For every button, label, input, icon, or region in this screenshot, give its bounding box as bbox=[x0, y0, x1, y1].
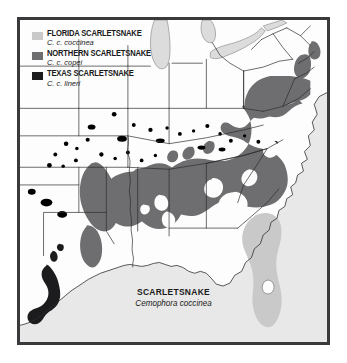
legend-label-texas-scientific: C. c. lineri bbox=[47, 80, 134, 88]
legend-label-northern-common: NORTHERN SCARLETSNAKE bbox=[47, 50, 151, 58]
legend-item-texas-scarletsnake[interactable]: TEXAS SCARLETSNAKE C. c. lineri bbox=[32, 70, 159, 87]
legend-label-florida-common: FLORIDA SCARLETSNAKE bbox=[47, 30, 142, 38]
legend-swatch-texas-icon bbox=[32, 72, 43, 80]
caption-scientific-name: Cemophora coccinea bbox=[29, 298, 318, 308]
map-frame: FLORIDA SCARLETSNAKE C. c. coccinea NORT… bbox=[17, 17, 330, 345]
legend-item-florida-scarletsnake[interactable]: FLORIDA SCARLETSNAKE C. c. coccinea bbox=[32, 30, 159, 47]
map-legend: FLORIDA SCARLETSNAKE C. c. coccinea NORT… bbox=[32, 30, 159, 91]
legend-label-texas-common: TEXAS SCARLETSNAKE bbox=[47, 70, 134, 78]
map-caption: SCARLETSNAKE Cemophora coccinea bbox=[20, 287, 327, 308]
legend-label-florida-scientific: C. c. coccinea bbox=[47, 39, 142, 47]
caption-common-name: SCARLETSNAKE bbox=[29, 287, 318, 297]
legend-swatch-northern-icon bbox=[32, 52, 43, 60]
scarletsnake-range-figure: FLORIDA SCARLETSNAKE C. c. coccinea NORT… bbox=[0, 0, 347, 363]
legend-swatch-florida-icon bbox=[32, 32, 43, 40]
legend-label-northern-scientific: C. c. copei bbox=[47, 59, 151, 67]
legend-item-northern-scarletsnake[interactable]: NORTHERN SCARLETSNAKE C. c. copei bbox=[32, 50, 159, 67]
